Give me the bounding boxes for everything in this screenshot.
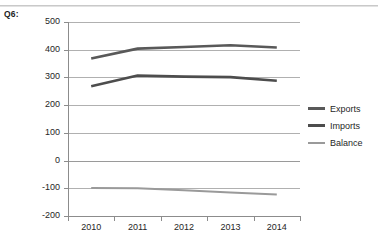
series-line-balance [91,188,277,194]
x-tick [161,216,162,221]
legend-item-imports[interactable]: Imports [308,117,378,134]
x-tick [207,216,208,221]
chart-legend: ExportsImportsBalance [308,100,378,151]
legend-swatch-icon [308,124,325,127]
y-axis-label: 300 [20,71,60,81]
chart-page: Q6: 5004003002001000-100-200 20102011201… [0,0,378,242]
y-axis-label: -200 [20,210,60,220]
y-axis-label: 100 [20,127,60,137]
x-tick [114,216,115,221]
y-axis-label: 400 [20,44,60,54]
x-tick [68,216,69,221]
x-axis-label: 2014 [254,222,300,232]
legend-label: Imports [330,121,360,131]
y-axis-label: -100 [20,182,60,192]
x-axis-label: 2011 [115,222,161,232]
series-line-exports [91,45,277,58]
legend-swatch-icon [308,107,325,110]
legend-swatch-icon [308,142,325,144]
x-tick [300,216,301,221]
legend-item-exports[interactable]: Exports [308,100,378,117]
legend-item-balance[interactable]: Balance [308,134,378,151]
y-axis-label: 500 [20,16,60,26]
legend-label: Exports [330,104,361,114]
legend-label: Balance [330,138,363,148]
x-axis-label: 2010 [68,222,114,232]
series-layer [68,22,300,216]
y-axis-label: 0 [20,155,60,165]
x-axis-label: 2013 [207,222,253,232]
y-axis-label: 200 [20,99,60,109]
x-axis-line [68,216,300,217]
x-tick [254,216,255,221]
series-line-imports [91,75,277,86]
x-axis-label: 2012 [161,222,207,232]
